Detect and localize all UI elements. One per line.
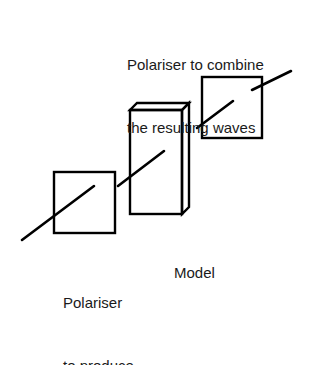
source-polariser-label: Polariser to produce plane polarised lig…: [63, 250, 165, 365]
left-polariser-square: [54, 172, 115, 233]
model-label-line-1: Model: [174, 262, 215, 283]
combiner-polariser-label-line-2: the resulting waves: [127, 117, 264, 138]
combiner-polariser-label: Polariser to combine the resulting waves: [127, 12, 264, 180]
model-label: Model: [174, 220, 215, 325]
combiner-polariser-label-line-1: Polariser to combine: [127, 54, 264, 75]
source-polariser-label-line-1: Polariser: [63, 292, 165, 313]
source-polariser-label-line-2: to produce: [63, 355, 165, 365]
polariscope-diagram: Polariser to combine the resulting waves…: [0, 0, 313, 365]
